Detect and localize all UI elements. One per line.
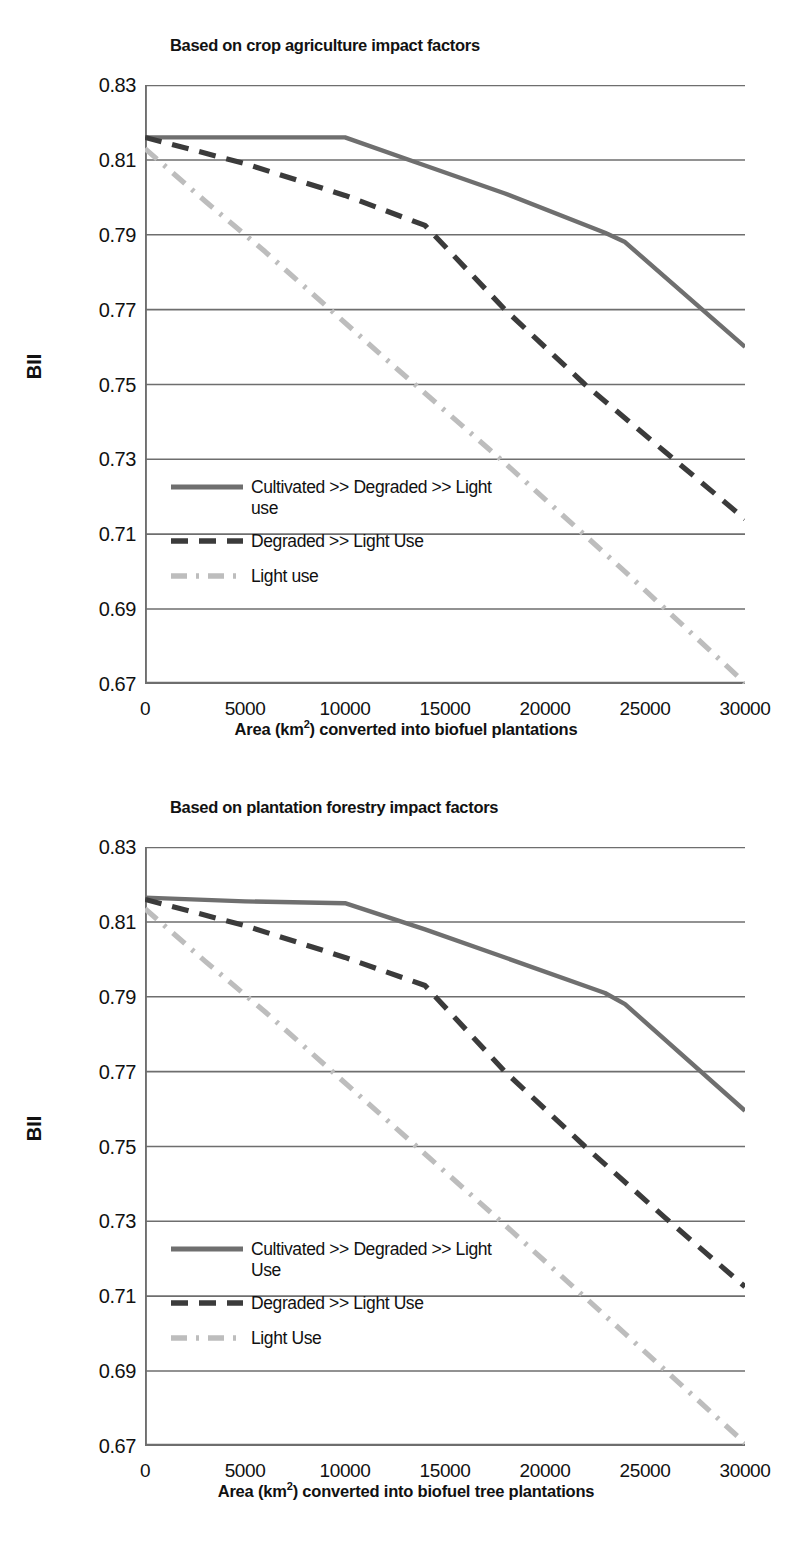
legend-item-solid-bottom[interactable]: Cultivated >> Degraded >> Light Use (167, 1239, 496, 1281)
x-tick-top-6: 30000 (720, 698, 771, 720)
x-tick-bottom-4: 20000 (520, 1460, 571, 1482)
series-line-dashdot-bottom (145, 909, 745, 1443)
x-tick-bottom-1: 5000 (225, 1460, 266, 1482)
y-tick-top-7: 0.69 (99, 598, 136, 621)
plot-area-top: 0.83 0.81 0.79 0.77 0.75 0.73 0.71 0.69 … (145, 85, 745, 684)
x-tick-bottom-5: 25000 (620, 1460, 671, 1482)
legend-key-dashdot-line-icon (167, 1328, 247, 1348)
y-tick-bottom-0: 0.83 (99, 836, 136, 859)
y-tick-bottom-2: 0.79 (99, 985, 136, 1008)
legend-key-solid-line-icon (167, 1239, 247, 1259)
y-axis-label-top: BII (23, 354, 46, 380)
y-tick-top-6: 0.71 (99, 523, 136, 546)
y-tick-bottom-1: 0.81 (99, 911, 136, 934)
x-tick-top-2: 10000 (320, 698, 371, 720)
legend-item-dashdot-top[interactable]: Light use (167, 566, 496, 587)
legend-key-dashed-line-icon (167, 531, 247, 551)
series-line-solid-top (145, 137, 745, 347)
legend-item-dashed-top[interactable]: Degraded >> Light Use (167, 531, 496, 552)
y-tick-top-8: 0.67 (99, 672, 136, 695)
plot-svg-bottom (145, 847, 745, 1446)
x-tick-bottom-3: 15000 (420, 1460, 471, 1482)
legend-key-dashdot-line-icon (167, 566, 247, 586)
y-tick-top-1: 0.81 (99, 149, 136, 172)
y-tick-bottom-4: 0.75 (99, 1135, 136, 1158)
figure-page: Based on crop agriculture impact factors… (0, 0, 812, 1541)
y-tick-bottom-7: 0.69 (99, 1360, 136, 1383)
y-tick-bottom-5: 0.73 (99, 1210, 136, 1233)
legend-label-dashdot-bottom: Light Use (251, 1328, 321, 1349)
y-tick-top-5: 0.73 (99, 448, 136, 471)
legend-label-solid-top: Cultivated >> Degraded >> Light use (251, 477, 496, 519)
legend-item-dashed-bottom[interactable]: Degraded >> Light Use (167, 1293, 496, 1314)
legend-bottom: Cultivated >> Degraded >> Light Use Degr… (167, 1239, 496, 1351)
legend-item-solid-top[interactable]: Cultivated >> Degraded >> Light use (167, 477, 496, 519)
x-axis-label-bottom: Area (km2) converted into biofuel tree p… (0, 1480, 812, 1501)
y-axis-label-bottom: BII (23, 1116, 46, 1142)
legend-label-dashed-bottom: Degraded >> Light Use (251, 1293, 424, 1314)
x-tick-bottom-0: 0 (140, 1460, 150, 1482)
x-axis-label-top: Area (km2) converted into biofuel planta… (0, 718, 812, 739)
chart-title-bottom: Based on plantation forestry impact fact… (170, 798, 498, 817)
chart-panel-bottom: Based on plantation forestry impact fact… (0, 762, 812, 1532)
y-tick-bottom-6: 0.71 (99, 1285, 136, 1308)
legend-item-dashdot-bottom[interactable]: Light Use (167, 1328, 496, 1349)
y-tick-bottom-8: 0.67 (99, 1434, 136, 1457)
legend-label-dashed-top: Degraded >> Light Use (251, 531, 424, 552)
x-tick-top-4: 20000 (520, 698, 571, 720)
y-tick-top-2: 0.79 (99, 223, 136, 246)
chart-title-top: Based on crop agriculture impact factors (170, 36, 480, 55)
legend-top: Cultivated >> Degraded >> Light use Degr… (167, 477, 496, 589)
x-tick-top-0: 0 (140, 698, 150, 720)
legend-key-dashed-line-icon (167, 1293, 247, 1313)
plot-area-bottom: 0.83 0.81 0.79 0.77 0.75 0.73 0.71 0.69 … (145, 847, 745, 1446)
legend-key-solid-line-icon (167, 477, 247, 497)
x-tick-top-5: 25000 (620, 698, 671, 720)
series-line-dashed-top (145, 137, 745, 519)
x-tick-bottom-6: 30000 (720, 1460, 771, 1482)
series-line-dashed-bottom (145, 899, 745, 1286)
y-tick-top-4: 0.75 (99, 373, 136, 396)
x-tick-top-1: 5000 (225, 698, 266, 720)
legend-label-dashdot-top: Light use (251, 566, 318, 587)
x-tick-top-3: 15000 (420, 698, 471, 720)
x-tick-bottom-2: 10000 (320, 1460, 371, 1482)
series-line-dashdot-top (145, 149, 745, 683)
y-tick-top-0: 0.83 (99, 74, 136, 97)
plot-svg-top (145, 85, 745, 684)
legend-label-solid-bottom: Cultivated >> Degraded >> Light Use (251, 1239, 496, 1281)
y-tick-bottom-3: 0.77 (99, 1060, 136, 1083)
chart-panel-top: Based on crop agriculture impact factors… (0, 0, 812, 770)
y-tick-top-3: 0.77 (99, 298, 136, 321)
